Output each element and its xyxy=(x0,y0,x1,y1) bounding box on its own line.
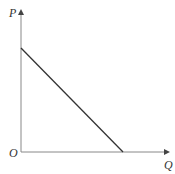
origin-label: O xyxy=(9,146,18,160)
demand-diagram: P O Q xyxy=(0,0,175,174)
y-axis-label: P xyxy=(8,6,17,20)
demand-line xyxy=(21,48,123,152)
x-axis-label: Q xyxy=(164,158,173,172)
